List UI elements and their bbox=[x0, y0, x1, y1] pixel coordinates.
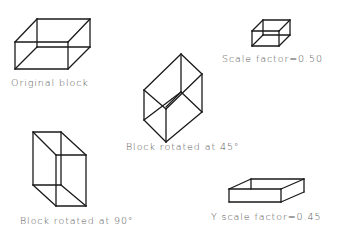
rotated-45-label: Block rotated at 45° bbox=[126, 141, 240, 152]
scaled-block bbox=[252, 20, 290, 46]
rotated-90-block bbox=[33, 132, 86, 206]
block-edge bbox=[252, 35, 263, 46]
block-edge bbox=[166, 112, 202, 142]
original-block bbox=[15, 19, 90, 69]
rotated-90-label: Block rotated at 90° bbox=[20, 215, 134, 226]
block-edge bbox=[61, 185, 86, 206]
block-edge bbox=[181, 54, 202, 74]
block-edge bbox=[166, 74, 202, 109]
block-edge bbox=[229, 179, 251, 189]
scale-factor-label: Scale factor=0.50 bbox=[222, 53, 323, 64]
block-edge bbox=[61, 132, 86, 155]
block-edge bbox=[68, 47, 90, 69]
block-edge bbox=[15, 47, 37, 69]
block-edge bbox=[33, 185, 56, 206]
block-edge bbox=[144, 120, 166, 142]
block-edge bbox=[181, 92, 202, 112]
block-edge bbox=[166, 92, 181, 107]
block-edge bbox=[281, 192, 304, 202]
y-scale-factor-label: Y scale factor=0.45 bbox=[211, 211, 321, 222]
block-edge bbox=[281, 179, 304, 189]
block-edge bbox=[68, 19, 90, 42]
block-edge bbox=[279, 20, 290, 31]
original-block-label: Original block bbox=[11, 77, 89, 88]
block-edge bbox=[15, 19, 37, 42]
block-edge bbox=[279, 35, 290, 46]
block-edge bbox=[144, 92, 181, 120]
rotated-45-block bbox=[144, 54, 202, 142]
block-transformations-diagram: Original block Scale factor=0.50 Block r… bbox=[0, 0, 337, 235]
block-edge bbox=[252, 20, 263, 31]
block-edge bbox=[144, 54, 181, 90]
block-edge bbox=[33, 132, 56, 155]
y-scaled-block bbox=[229, 179, 304, 202]
